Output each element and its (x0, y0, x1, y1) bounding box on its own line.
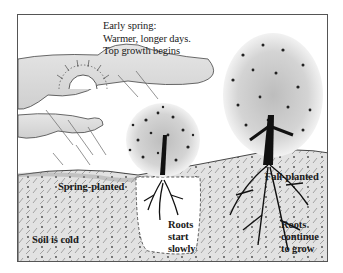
label-soil-cold: Soil is cold (32, 234, 79, 246)
label-roots-continue: Roots continue to grow (281, 219, 319, 255)
label-fall-planted: Fall-planted (265, 171, 319, 183)
label-roots-start: Roots start slowly (168, 219, 195, 255)
illustration-frame: Early spring: Warmer, longer days. Top g… (17, 14, 328, 262)
caption-early-spring: Early spring: Warmer, longer days. Top g… (103, 20, 191, 58)
label-spring-planted: Spring-planted (58, 181, 124, 193)
